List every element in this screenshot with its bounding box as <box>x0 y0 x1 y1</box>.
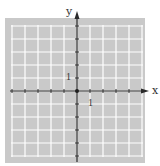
origin-point <box>75 89 79 93</box>
x-unit-tick-label: 1 <box>88 98 93 108</box>
coordinate-plane <box>0 0 160 166</box>
y-axis-label: y <box>66 6 72 17</box>
y-unit-tick-label: 1 <box>66 72 71 82</box>
y-axis-arrow-icon <box>75 11 80 19</box>
x-axis-label: x <box>152 85 158 96</box>
